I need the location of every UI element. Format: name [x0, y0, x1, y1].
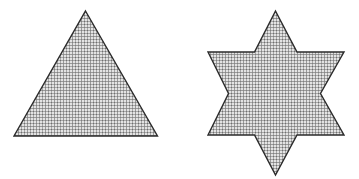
- shapes-figure: [0, 0, 359, 179]
- figure-canvas: [0, 0, 359, 179]
